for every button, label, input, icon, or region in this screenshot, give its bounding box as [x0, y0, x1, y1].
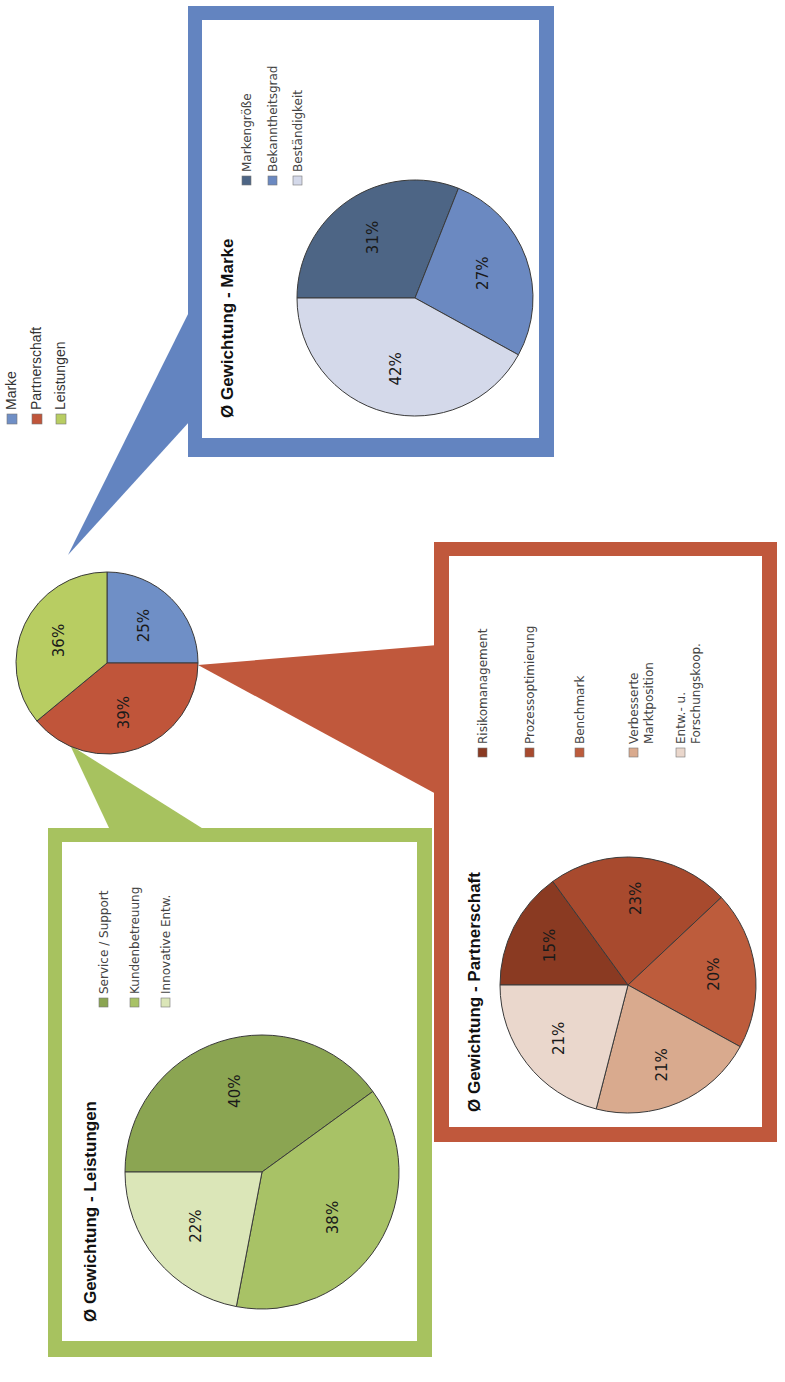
- data-label-marke-2: 42%: [387, 352, 405, 385]
- title-partnerschaft: Ø Gewichtung - Partnerschaft: [465, 872, 484, 1112]
- legend-partnerschaft-0: Risikomanagement: [476, 628, 490, 757]
- legend-partnerschaft-3-label: Verbesserte: [627, 672, 641, 744]
- data-label-partnerschaft-2: 20%: [705, 957, 723, 990]
- data-label-partnerschaft-4: 21%: [550, 1022, 568, 1055]
- callout-marke: [68, 290, 200, 555]
- data-label-overview-0: 25%: [135, 609, 153, 642]
- legend-overview-1-label: Partnerschaft: [28, 327, 44, 410]
- data-label-leistungen-2: 22%: [187, 1209, 205, 1242]
- callout-partnerschaft: [198, 645, 438, 795]
- legend-overview-2-label: Leistungen: [52, 341, 68, 410]
- legend-partnerschaft-0-swatch: [478, 748, 487, 757]
- data-label-marke-0: 31%: [364, 221, 382, 254]
- data-label-partnerschaft-1: 23%: [627, 882, 645, 915]
- legend-marke-2-label: Beständigkeit: [291, 90, 305, 172]
- callout-leistungen: [70, 745, 205, 830]
- legend-leistungen-2-swatch: [161, 998, 170, 1007]
- data-label-overview-1: 39%: [115, 696, 133, 729]
- data-label-overview-2: 36%: [50, 624, 68, 657]
- legend-overview-1-swatch: [32, 414, 42, 424]
- legend-overview-2: Leistungen: [52, 341, 68, 424]
- title-marke: Ø Gewichtung - Marke: [218, 239, 237, 418]
- legend-leistungen-1-label: Kundenbetreuung: [128, 887, 142, 994]
- legend-overview-0-swatch: [7, 414, 17, 424]
- legend-leistungen-0-swatch: [99, 998, 108, 1007]
- legend-leistungen-2: Innovative Entw.: [159, 895, 173, 1007]
- legend-marke-1: Bekanntheitsgrad: [266, 66, 280, 185]
- legend-leistungen-1-swatch: [130, 998, 139, 1007]
- legend-partnerschaft-3-label: Marktposition: [642, 662, 656, 744]
- title-leistungen: Ø Gewichtung - Leistungen: [81, 1101, 100, 1322]
- data-label-leistungen-0: 40%: [226, 1075, 244, 1108]
- legend-marke-2: Beständigkeit: [291, 90, 305, 185]
- legend-partnerschaft-3-swatch: [629, 748, 638, 757]
- legend-marke-1-label: Bekanntheitsgrad: [266, 66, 280, 172]
- chart-canvas: 25%39%36%31%27%42%15%23%20%21%21%40%38%2…: [0, 0, 785, 1382]
- legend-partnerschaft-0-label: Risikomanagement: [476, 628, 490, 744]
- legend-partnerschaft-2-swatch: [575, 748, 584, 757]
- legend-leistungen-1: Kundenbetreuung: [128, 887, 142, 1007]
- legend-overview-0-label: Marke: [3, 371, 19, 410]
- data-label-partnerschaft-3: 21%: [653, 1048, 671, 1081]
- legend-partnerschaft-1-swatch: [525, 748, 534, 757]
- legend-leistungen-2-label: Innovative Entw.: [159, 895, 173, 994]
- legend-overview-1: Partnerschaft: [28, 327, 44, 424]
- data-label-leistungen-1: 38%: [324, 1201, 342, 1234]
- legend-partnerschaft-1-label: Prozessoptimierung: [523, 626, 537, 744]
- legend-partnerschaft-1: Prozessoptimierung: [523, 626, 537, 757]
- legend-partnerschaft-2-label: Benchmark: [573, 676, 587, 744]
- legend-overview-2-swatch: [56, 414, 66, 424]
- legend-overview-0: Marke: [3, 371, 19, 424]
- legend-marke-2-swatch: [293, 176, 302, 185]
- data-label-marke-1: 27%: [474, 257, 492, 290]
- legend-partnerschaft-4-swatch: [676, 748, 685, 757]
- legend-marke-1-swatch: [268, 176, 277, 185]
- legend-marke-0-swatch: [242, 176, 251, 185]
- legend-marke-0: Markengröße: [240, 93, 254, 185]
- legend-leistungen-0-label: Service / Support: [97, 890, 111, 994]
- legend-partnerschaft-4-label: Entw.- u.: [674, 692, 688, 744]
- legend-partnerschaft-4-label: Forschungskoop.: [689, 643, 703, 744]
- legend-partnerschaft-3: VerbesserteMarktposition: [627, 662, 656, 757]
- legend-marke-0-label: Markengröße: [240, 93, 254, 172]
- legend-leistungen-0: Service / Support: [97, 890, 111, 1007]
- legend-partnerschaft-2: Benchmark: [573, 676, 587, 757]
- data-label-partnerschaft-0: 15%: [541, 929, 559, 962]
